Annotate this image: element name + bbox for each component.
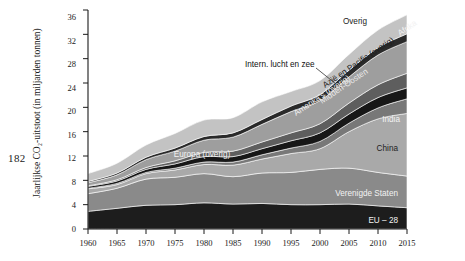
annotation-intern-lucht-en-zee: Intern. lucht en zee <box>245 60 315 69</box>
band-label-india: India <box>382 115 400 124</box>
y-tick-marks <box>83 10 88 229</box>
band-label-eu28: EU – 28 <box>368 216 398 225</box>
figure-co2-emissions-chart: 182 Jaarlijkse CO₂-uitstoot (in miljarde… <box>0 0 465 261</box>
band-label-europa-overig: Europa (overig) <box>174 150 231 159</box>
band-label-china: China <box>377 144 399 153</box>
band-label-overig: Overig <box>343 17 368 26</box>
x-tick-marks <box>88 229 407 234</box>
band-label-verenigde-staten: Verenigde Staten <box>335 189 398 198</box>
stacked-area-plot: EU – 28 Verenigde Staten China India Eur… <box>0 0 465 261</box>
area-band <box>88 203 407 229</box>
